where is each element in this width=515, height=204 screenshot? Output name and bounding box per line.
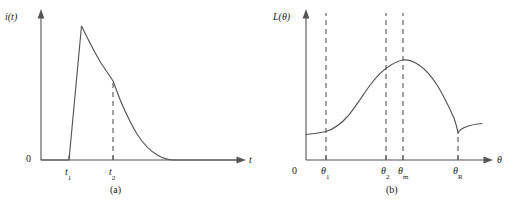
panel-b-curve-L-of-theta — [306, 60, 482, 135]
panel-b-x-axis — [306, 157, 493, 164]
panel-b-x-ticks — [326, 156, 458, 161]
panel-a-caption: (a) — [110, 184, 121, 195]
panel-a-tick-t2-sub: 2 — [112, 174, 116, 182]
panel-b-y-axis — [303, 9, 310, 160]
panel-b-likelihood-curve: L(θ) 0 θ1 θ2 θm θR θ (b) — [258, 0, 515, 204]
panel-b-x-tick-label-theta1: θ1 — [321, 166, 329, 176]
panel-b-y-axis-label: L(θ) — [273, 12, 290, 22]
panel-b-origin-label: 0 — [292, 166, 297, 176]
figure-root: i(t) 0 t1 t2 t (a) — [0, 0, 515, 204]
panel-a-curve-i-of-t — [41, 26, 239, 160]
panel-a-y-axis — [38, 9, 45, 160]
panel-a-y-axis-label: i(t) — [5, 12, 17, 22]
panel-a-x-tick-label-t2: t2 — [109, 167, 115, 177]
panel-a-current-waveform: i(t) 0 t1 t2 t (a) — [0, 0, 258, 204]
panel-b-x-tick-label-thetaR: θR — [453, 166, 463, 176]
panel-a-plot — [0, 0, 258, 204]
panel-b-x-axis-label: θ — [497, 155, 502, 165]
panel-b-x-tick-label-theta2: θ2 — [381, 166, 389, 176]
panel-a-x-tick-label-t1: t1 — [65, 167, 71, 177]
panel-a-origin-label: 0 — [26, 154, 31, 164]
panel-b-tick-theta1-sub: 1 — [326, 173, 330, 181]
panel-b-tick-thetam-sub: m — [403, 173, 408, 181]
panel-b-tick-theta2-sub: 2 — [386, 173, 390, 181]
panel-b-x-tick-label-thetam: θm — [398, 166, 408, 176]
panel-a-tick-t1-sub: 1 — [68, 174, 72, 182]
panel-a-x-ticks — [69, 156, 113, 161]
panel-b-caption: (b) — [386, 184, 398, 195]
panel-b-tick-thetaR-sub: R — [458, 173, 463, 181]
panel-a-x-axis-label: t — [249, 155, 252, 165]
